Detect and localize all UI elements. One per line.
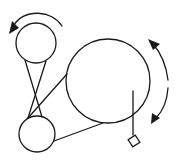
right-lower-arc: [156, 88, 168, 118]
belt-cross-left: [25, 60, 42, 117]
diagram-canvas: [0, 0, 176, 160]
top-pulley: [16, 23, 56, 63]
pendulum-weight-diamond: [127, 134, 141, 148]
belt-upper-to-wheel: [28, 74, 67, 118]
right-upper-arc: [153, 44, 168, 80]
large-wheel: [66, 39, 150, 123]
top-rotation-arc: [13, 13, 62, 26]
bottom-pulley: [19, 116, 55, 152]
right-upper-arrowhead-icon: [148, 39, 160, 50]
top-arrowhead-icon: [9, 21, 19, 34]
belt-lower-to-wheel: [54, 123, 103, 141]
pulley-diagram: [0, 0, 176, 160]
belt-cross-right: [28, 61, 46, 118]
